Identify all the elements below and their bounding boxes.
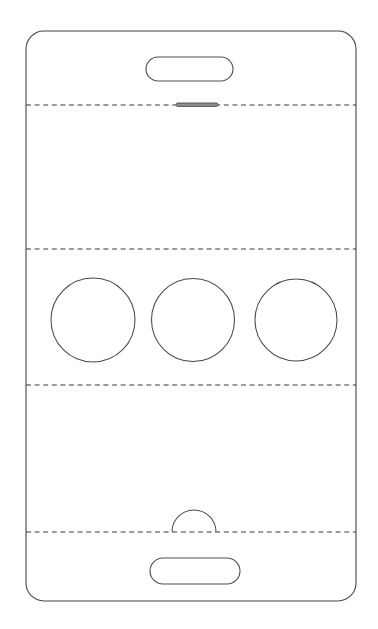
bottom-slot-cutout bbox=[150, 558, 240, 584]
diagram-canvas bbox=[0, 0, 378, 629]
hole-center bbox=[152, 279, 235, 362]
device-template-diagram bbox=[0, 0, 378, 629]
speaker-grille-bar bbox=[176, 103, 218, 106]
hole-right bbox=[255, 279, 337, 361]
top-slot-cutout bbox=[146, 57, 233, 81]
hole-left bbox=[51, 278, 135, 362]
